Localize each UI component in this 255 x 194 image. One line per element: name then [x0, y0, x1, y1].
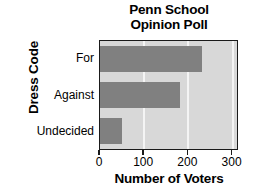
x-tick-label-0: 0 [79, 156, 119, 169]
chart-title-line-1: Penn School [99, 2, 239, 17]
x-axis-tick-labels: 0100200300 [99, 156, 238, 170]
chart-title: Penn School Opinion Poll [99, 2, 239, 32]
x-tick-label-300: 300 [212, 156, 252, 169]
bar-chart-figure: Penn School Opinion Poll Dress Code For … [0, 0, 255, 194]
x-tick-label-200: 200 [167, 156, 207, 169]
x-axis-title: Number of Voters [89, 171, 249, 186]
x-tick-label-100: 100 [123, 156, 163, 169]
y-tick-label-against: Against [20, 89, 94, 101]
chart-title-line-2: Opinion Poll [99, 17, 239, 32]
bar-undecided [100, 118, 122, 143]
plot-area [99, 40, 238, 150]
bar-against [100, 82, 180, 107]
y-axis-tick-labels: For Against Undecided [20, 40, 96, 150]
gridline-300 [232, 41, 234, 149]
y-tick-label-for: For [20, 52, 94, 64]
bar-for [100, 46, 202, 71]
y-tick-label-undecided: Undecided [20, 125, 94, 137]
